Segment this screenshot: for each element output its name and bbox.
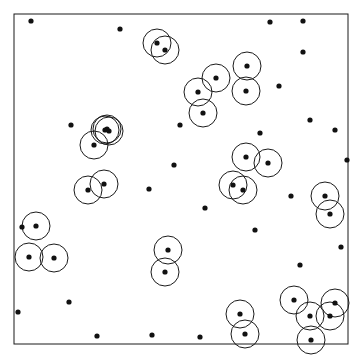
plain-point-16 <box>94 333 99 338</box>
circled-point-22 <box>237 311 242 316</box>
circled-point-11 <box>243 154 248 159</box>
circled-point-2 <box>213 75 218 80</box>
plain-point-1 <box>117 26 122 31</box>
circled-point-10 <box>85 187 90 192</box>
plain-point-9 <box>146 186 151 191</box>
plain-point-12 <box>338 244 343 249</box>
circled-point-17 <box>33 223 38 228</box>
circled-point-20 <box>165 247 170 252</box>
circled-point-23 <box>242 331 247 336</box>
circled-point-1 <box>162 47 167 52</box>
plain-point-6 <box>68 122 73 127</box>
circled-point-18 <box>26 254 31 259</box>
circled-point-9 <box>101 181 106 186</box>
circled-point-0 <box>154 40 159 45</box>
circled-point-5 <box>244 63 249 68</box>
circled-point-28 <box>308 337 313 342</box>
circled-point-15 <box>322 193 327 198</box>
circled-point-25 <box>332 300 337 305</box>
circled-point-4 <box>200 110 205 115</box>
plain-point-24 <box>344 157 349 162</box>
figure-canvas <box>0 0 362 357</box>
circled-point-13 <box>230 182 235 187</box>
plain-point-20 <box>177 122 182 127</box>
circled-point-26 <box>307 313 312 318</box>
circled-point-19 <box>51 255 56 260</box>
plain-point-7 <box>332 127 337 132</box>
plain-point-0 <box>28 18 33 23</box>
plain-point-21 <box>307 117 312 122</box>
plain-point-8 <box>171 162 176 167</box>
circled-point-3 <box>195 89 200 94</box>
plain-point-3 <box>300 18 305 23</box>
plain-point-11 <box>288 193 293 198</box>
circled-point-12 <box>265 160 270 165</box>
plain-point-5 <box>276 83 281 88</box>
plain-point-22 <box>257 130 262 135</box>
circled-point-16 <box>327 211 332 216</box>
circled-point-30 <box>106 128 111 133</box>
plain-point-15 <box>66 299 71 304</box>
scatter-plot-svg <box>0 0 362 357</box>
circled-point-24 <box>291 297 296 302</box>
circled-point-14 <box>240 187 245 192</box>
circled-point-27 <box>327 313 332 318</box>
circled-point-6 <box>243 88 248 93</box>
plain-point-4 <box>300 49 305 54</box>
plain-point-18 <box>197 334 202 339</box>
plain-point-17 <box>149 332 154 337</box>
plain-point-13 <box>252 227 257 232</box>
circled-point-21 <box>162 269 167 274</box>
plain-point-23 <box>15 309 20 314</box>
circled-point-8 <box>91 142 96 147</box>
plain-point-2 <box>267 19 272 24</box>
plain-point-19 <box>19 224 24 229</box>
plain-point-10 <box>202 205 207 210</box>
plain-point-14 <box>297 262 302 267</box>
